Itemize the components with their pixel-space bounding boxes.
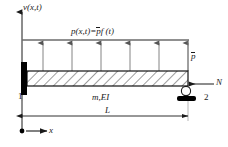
beam-properties-label: m,EI xyxy=(92,93,109,102)
horizontal-axis-label: x xyxy=(49,126,53,135)
horizontal-axis xyxy=(20,129,47,134)
load-function-prefix: p(x,t)= xyxy=(71,26,96,36)
load-function-label: p(x,t)=pf (t) xyxy=(71,27,114,36)
beam-diagram-figure: v(x,t) p(x,t)=pf (t) p N 1 2 m,EI L x xyxy=(0,0,228,147)
diagram-canvas xyxy=(0,0,228,147)
distributed-load-arrows xyxy=(43,43,188,71)
roller-support-right xyxy=(177,86,196,101)
pbar-glyph: p xyxy=(191,52,196,61)
node-label-left: 1 xyxy=(18,92,23,101)
load-function-pbar: p xyxy=(96,27,101,36)
beam-member xyxy=(27,71,188,86)
vertical-axis-label: v(x,t) xyxy=(23,3,42,12)
load-function-suffix: f (t) xyxy=(101,26,114,36)
load-amplitude-label: p xyxy=(191,52,196,61)
span-length-label: L xyxy=(105,106,110,115)
axial-force-label: N xyxy=(216,78,222,87)
node-label-right: 2 xyxy=(204,93,209,102)
